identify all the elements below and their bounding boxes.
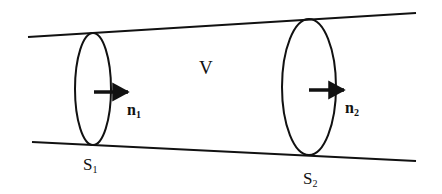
surface-s2-ellipse (282, 19, 336, 155)
normal-n2-label: n2 (345, 99, 359, 118)
diagram-canvas: V n1 n2 S1 S2 (0, 0, 442, 194)
volume-label: V (199, 57, 213, 78)
normal-n1-label: n1 (127, 101, 141, 120)
tube-top-edge (28, 13, 416, 37)
surface-s1-ellipse (75, 33, 111, 145)
flux-tube-diagram: V n1 n2 S1 S2 (0, 0, 442, 194)
surface-s2-label: S2 (303, 169, 317, 189)
surface-s1-label: S1 (83, 155, 97, 175)
